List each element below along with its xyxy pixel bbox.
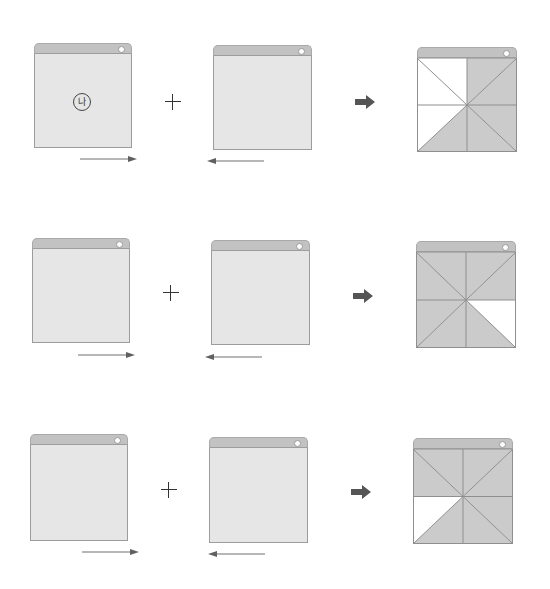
window-dot-icon [296,243,303,250]
plus-icon [163,285,179,301]
title-bar [209,437,308,448]
title-bar [416,241,516,252]
title-bar [213,45,312,56]
title-bar [413,438,513,449]
row3-left-panel [30,434,128,541]
circled-symbol: 나 [73,93,91,111]
window-dot-icon [499,441,506,448]
row1-left-panel: 나 [34,43,132,148]
panel-body [32,249,130,343]
plus-icon [165,94,181,110]
panel-body [211,251,310,345]
row1-middle-panel [213,45,312,150]
window-dot-icon [298,48,305,55]
row3-block-arrow-icon [351,485,371,499]
title-bar [32,238,130,249]
panel-body [30,445,128,541]
row1-left-arrow-icon [206,157,264,165]
row2-left-arrow-icon [204,353,262,361]
title-bar [417,47,517,58]
row2-right-arrow-icon [78,351,136,359]
row1-result-panel [417,47,517,152]
row3-left-arrow-icon [207,550,265,558]
window-dot-icon [503,50,510,57]
row2-left-panel [32,238,130,343]
row1-block-arrow-icon [355,95,375,109]
panel-body [213,56,312,150]
window-dot-icon [294,440,301,447]
plus-icon [161,482,177,498]
window-dot-icon [502,244,509,251]
row1-right-arrow-icon [80,155,138,163]
result-grid [417,58,517,152]
window-dot-icon [118,46,125,53]
row2-middle-panel [211,240,310,345]
row3-result-panel [413,438,513,544]
row3-right-arrow-icon [82,548,140,556]
window-dot-icon [114,437,121,444]
result-grid [413,449,513,544]
result-grid [416,252,516,348]
row2-block-arrow-icon [353,289,373,303]
window-dot-icon [116,241,123,248]
row3-middle-panel [209,437,308,543]
panel-body [209,448,308,543]
title-bar [30,434,128,445]
row2-result-panel [416,241,516,348]
title-bar [34,43,132,54]
title-bar [211,240,310,251]
